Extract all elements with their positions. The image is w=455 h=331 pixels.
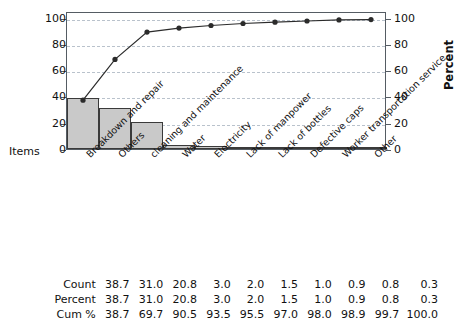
line-marker: Breakdown and repair: 38.7 bbox=[80, 98, 85, 103]
table-cell: 0.3 bbox=[399, 293, 438, 308]
table-cell: 69.7 bbox=[130, 308, 164, 323]
left-axis-tick-label: 60 bbox=[52, 64, 66, 77]
table-cell: 2.0 bbox=[231, 293, 265, 308]
table-row: Count38.731.020.83.02.01.51.00.90.80.3 bbox=[8, 278, 438, 293]
table-cell: 93.5 bbox=[197, 308, 231, 323]
left-axis-tick-label: 100 bbox=[45, 12, 66, 25]
line-marker: Lack of bottles: 98 bbox=[272, 20, 277, 25]
right-axis-tick-label: 60 bbox=[394, 64, 408, 77]
line-marker: Water: 93.5 bbox=[176, 26, 181, 31]
table-cell: 2.0 bbox=[231, 278, 265, 293]
table-cell: 1.5 bbox=[264, 293, 298, 308]
axis-tick-mark bbox=[386, 97, 391, 98]
table-cell: 98.0 bbox=[298, 308, 332, 323]
table-cell: 3.0 bbox=[197, 278, 231, 293]
table-cell: 20.8 bbox=[163, 278, 197, 293]
table-cell: 38.7 bbox=[96, 293, 130, 308]
table-cell: 20.8 bbox=[163, 293, 197, 308]
line-marker: Defective caps: 98.9 bbox=[304, 18, 309, 23]
table-row-label: Count bbox=[8, 278, 96, 293]
category-axis-labels: Breakdown and repairOtherscleaning and m… bbox=[0, 150, 455, 270]
table-row-label: Percent bbox=[8, 293, 96, 308]
left-axis-tick-label: 40 bbox=[52, 90, 66, 103]
table-cell: 1.0 bbox=[298, 293, 332, 308]
table-cell: 95.5 bbox=[231, 308, 265, 323]
right-axis-tick-label: 100 bbox=[394, 12, 415, 25]
axis-tick-mark bbox=[386, 124, 391, 125]
pareto-chart-figure: 100806040200 Breakdown and repair: 38.7O… bbox=[0, 0, 455, 331]
left-axis-tick-label: 20 bbox=[52, 117, 66, 130]
left-axis-tick-label: 80 bbox=[52, 38, 66, 51]
table-cell: 0.3 bbox=[399, 278, 438, 293]
table-cell: 99.7 bbox=[365, 308, 399, 323]
line-marker: Worker transportation service: 99.7 bbox=[336, 17, 341, 22]
line-marker: Other: 100 bbox=[368, 17, 373, 22]
table-cell: 38.7 bbox=[96, 308, 130, 323]
line-marker: Others: 69.7 bbox=[112, 57, 117, 62]
line-marker: cleaning and maintenance: 90.5 bbox=[144, 29, 149, 34]
axis-tick-mark bbox=[386, 19, 391, 20]
table-cell: 0.9 bbox=[332, 278, 366, 293]
axis-tick-mark bbox=[386, 45, 391, 46]
table-cell: 0.8 bbox=[365, 278, 399, 293]
right-axis-tick-label: 20 bbox=[394, 117, 408, 130]
line-marker: Electricity: 95.5 bbox=[208, 23, 213, 28]
table-cell: 1.0 bbox=[298, 278, 332, 293]
table-cell: 0.9 bbox=[332, 293, 366, 308]
table-cell: 97.0 bbox=[264, 308, 298, 323]
table-cell: 98.9 bbox=[332, 308, 366, 323]
right-axis-title: Percent bbox=[442, 40, 455, 90]
table-cell: 31.0 bbox=[130, 278, 164, 293]
table-cell: 38.7 bbox=[96, 278, 130, 293]
line-marker: Lack of manpower: 97 bbox=[240, 21, 245, 26]
summary-data-table: Count38.731.020.83.02.01.51.00.90.80.3Pe… bbox=[0, 278, 455, 323]
table-row-label: Cum % bbox=[8, 308, 96, 323]
table-cell: 0.8 bbox=[365, 293, 399, 308]
table-row: Cum %38.769.790.593.595.597.098.098.999.… bbox=[8, 308, 438, 323]
table-row: Percent38.731.020.83.02.01.51.00.90.80.3 bbox=[8, 293, 438, 308]
left-axis-spine bbox=[66, 12, 67, 150]
table-cell: 1.5 bbox=[264, 278, 298, 293]
right-axis-tick-label: 80 bbox=[394, 38, 408, 51]
table-cell: 100.0 bbox=[399, 308, 438, 323]
table-cell: 3.0 bbox=[197, 293, 231, 308]
axis-tick-mark bbox=[386, 71, 391, 72]
table-cell: 31.0 bbox=[130, 293, 164, 308]
table-cell: 90.5 bbox=[163, 308, 197, 323]
